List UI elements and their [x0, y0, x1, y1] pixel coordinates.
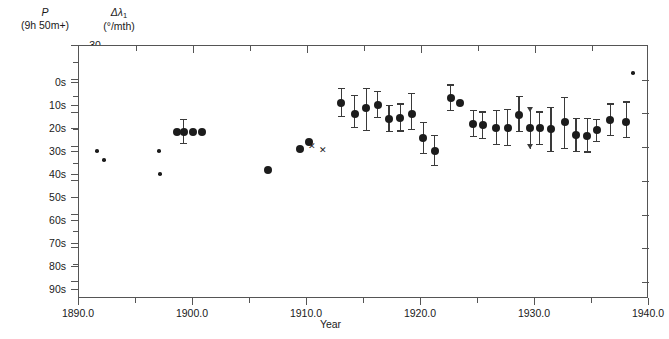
p-tick — [71, 82, 78, 83]
dlambda-tick — [71, 112, 78, 113]
x-axis-title: Year — [0, 318, 661, 330]
error-bar-cap-bottom — [504, 145, 511, 146]
p-tick-label: 60s — [32, 214, 66, 226]
p-tick — [71, 151, 78, 152]
error-bar-cap-top — [547, 107, 554, 108]
data-point — [189, 128, 197, 136]
data-point — [492, 124, 500, 132]
left-axis-dlambda-units: (°/mth) — [88, 20, 150, 33]
data-point — [593, 126, 601, 134]
dlambda-tick-right — [642, 113, 649, 114]
year-minor-tick-top — [250, 46, 251, 51]
data-point — [396, 114, 404, 122]
p-tick-label: 70s — [32, 237, 66, 249]
error-bar-cap-top — [470, 110, 477, 111]
data-point — [469, 120, 477, 128]
year-minor-tick-top — [478, 46, 479, 51]
error-bar-cap-top — [593, 119, 600, 120]
dlambda-tick-right — [642, 248, 649, 249]
year-tick — [306, 298, 307, 305]
data-point — [526, 124, 534, 132]
error-bar-cap-top — [561, 97, 568, 98]
data-point — [362, 104, 370, 112]
left-axis-dlambda-title: Δλ1 (°/mth) — [88, 6, 150, 34]
error-bar-cap-top — [338, 88, 345, 89]
error-bar-cap-bottom — [573, 151, 580, 152]
error-bar-cap-bottom — [351, 127, 358, 128]
error-bar-cap-bottom — [408, 129, 415, 130]
p-tick — [71, 197, 78, 198]
data-point — [456, 99, 464, 107]
data-point-cross: ✕ — [308, 142, 316, 151]
error-bar-cap-top — [386, 105, 393, 106]
error-bar-cap-bottom — [536, 144, 543, 145]
error-bar-cap-bottom — [493, 144, 500, 145]
error-bar-cap-top — [180, 119, 187, 120]
left-axis-dlambda-symbol: Δλ1 — [88, 6, 150, 20]
p-tick-label: 40s — [32, 168, 66, 180]
error-bar-cap-top — [351, 95, 358, 96]
data-point-small — [102, 158, 106, 162]
error-bar-cap-top — [573, 118, 580, 119]
error-bar-cap-top — [408, 93, 415, 94]
error-bar-cap-top — [479, 111, 486, 112]
error-bar-cap-top — [623, 101, 630, 102]
error-bar-cap-top — [493, 110, 500, 111]
p-tick-label: 30s — [32, 145, 66, 157]
data-point-small — [95, 149, 99, 153]
dlambda-tick — [71, 45, 78, 46]
error-bar-cap-top — [584, 118, 591, 119]
year-tick — [420, 298, 421, 305]
p-tick-label: 80s — [32, 260, 66, 272]
p-tick — [71, 174, 78, 175]
plot-area: ✕✕ — [78, 45, 648, 298]
data-point — [504, 124, 512, 132]
data-point — [337, 99, 345, 107]
error-bar-cap-bottom — [447, 110, 454, 111]
p-tick — [71, 266, 78, 267]
p-tick-label: 90s — [32, 283, 66, 295]
year-minor-tick-top — [364, 46, 365, 51]
error-bar-cap-top — [397, 103, 404, 104]
dlambda-tick — [71, 79, 78, 80]
data-point — [385, 115, 393, 123]
error-bar-arrow-up — [527, 107, 533, 112]
data-point — [198, 128, 206, 136]
data-point — [351, 110, 359, 118]
year-minor-tick — [135, 298, 136, 303]
year-tick-top — [307, 46, 308, 53]
error-bar-cap-bottom — [561, 148, 568, 149]
error-bar-arrow-down — [527, 144, 533, 149]
p-tick — [71, 128, 78, 129]
p-tick — [71, 220, 78, 221]
error-bar-cap-top — [374, 91, 381, 92]
year-tick-top — [193, 46, 194, 53]
p-tick — [71, 105, 78, 106]
dlambda-tick-right — [642, 147, 649, 148]
left-axis-p-title: P (9h 50m+) — [2, 6, 88, 32]
error-bar-cap-bottom — [623, 137, 630, 138]
year-minor-tick-top — [592, 46, 593, 51]
data-point — [536, 124, 544, 132]
year-tick — [648, 298, 649, 305]
dlambda-tick-right — [642, 282, 649, 283]
year-minor-tick — [591, 298, 592, 303]
dlambda-tick — [71, 214, 78, 215]
year-minor-tick — [477, 298, 478, 303]
year-minor-tick — [249, 298, 250, 303]
error-bar-cap-top — [363, 88, 370, 89]
error-bar-cap-bottom — [374, 117, 381, 118]
error-bar-cap-bottom — [470, 136, 477, 137]
error-bar-cap-bottom — [516, 131, 523, 132]
dlambda-tick-right — [642, 181, 649, 182]
data-point — [408, 110, 416, 118]
data-point-cross: ✕ — [319, 146, 327, 155]
p-tick-label: 10s — [32, 99, 66, 111]
year-tick — [534, 298, 535, 305]
dlambda-tick — [71, 146, 78, 147]
left-axis-p-symbol: P — [2, 6, 88, 19]
error-bar-cap-bottom — [338, 116, 345, 117]
error-bar-cap-top — [516, 96, 523, 97]
data-point — [479, 121, 487, 129]
data-point — [374, 101, 382, 109]
